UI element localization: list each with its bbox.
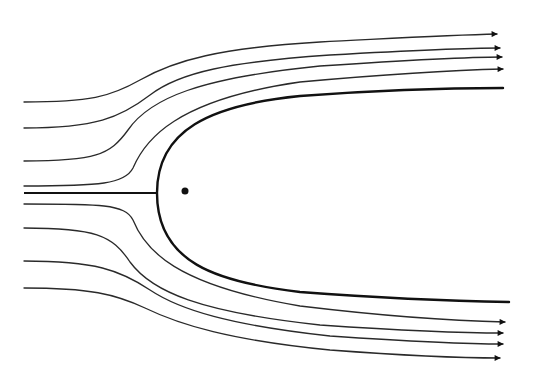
half-body-dividing-streamline (157, 88, 509, 302)
streamline-upper-1 (24, 34, 497, 102)
streamlines-group (24, 34, 505, 358)
streamline-lower-2 (24, 228, 503, 333)
source-point-dot (182, 188, 189, 195)
rankine-half-body-streamline-diagram (0, 0, 538, 379)
streamline-upper-4 (24, 69, 503, 186)
streamline-lower-1 (24, 204, 505, 322)
